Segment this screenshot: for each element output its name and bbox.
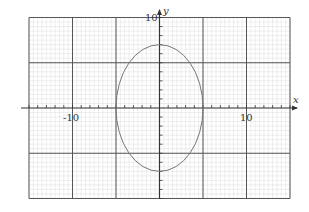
x-tick-label-neg10: -10: [63, 112, 79, 123]
coordinate-plane: -10 10 10 x y: [0, 0, 309, 212]
y-axis-label: y: [162, 5, 169, 16]
x-axis-label: x: [293, 94, 299, 105]
x-tick-label-10: 10: [240, 112, 253, 123]
x-axis-arrow-icon: [292, 106, 298, 111]
y-tick-label-10: 10: [145, 12, 158, 23]
y-axis-arrow-icon: [157, 9, 162, 15]
axes: [21, 9, 298, 199]
